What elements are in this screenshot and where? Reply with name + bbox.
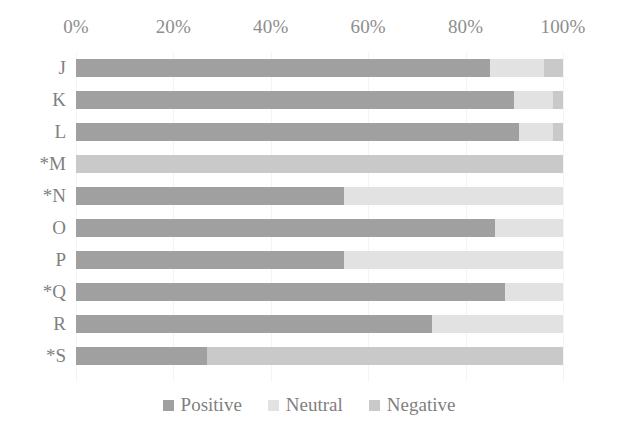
- category-label-J: J: [0, 52, 66, 84]
- x-axis-tick-80: 80%: [448, 16, 483, 38]
- category-label-star-S: *S: [0, 340, 66, 372]
- bar-segment-positive: [76, 59, 490, 77]
- bar-segment-neutral: [432, 315, 563, 333]
- bar-row: *M: [0, 148, 618, 180]
- bar-track: [76, 315, 563, 333]
- bar-segment-neutral: [344, 187, 563, 205]
- bar-segment-neutral: [495, 219, 563, 237]
- bar-segment-neutral: [519, 123, 553, 141]
- bar-row: O: [0, 212, 618, 244]
- bar-track: [76, 187, 563, 205]
- bar-row: *S: [0, 340, 618, 372]
- bar-segment-positive: [76, 91, 514, 109]
- category-label-R: R: [0, 308, 66, 340]
- bar-segment-neutral: [344, 251, 563, 269]
- legend-item-neutral[interactable]: Neutral: [268, 394, 343, 416]
- bar-track: [76, 219, 563, 237]
- x-axis-tick-40: 40%: [253, 16, 288, 38]
- bar-row: *Q: [0, 276, 618, 308]
- category-label-star-Q: *Q: [0, 276, 66, 308]
- category-label-K: K: [0, 84, 66, 116]
- bar-segment-positive: [76, 219, 495, 237]
- legend-label: Negative: [387, 394, 456, 416]
- category-label-star-M: *M: [0, 148, 66, 180]
- x-axis-tick-60: 60%: [350, 16, 385, 38]
- x-axis-tick-labels: 0%20%40%60%80%100%: [76, 16, 563, 44]
- x-axis-tick-20: 20%: [156, 16, 191, 38]
- bar-segment-neutral: [490, 59, 544, 77]
- legend-label: Positive: [181, 394, 242, 416]
- bar-track: [76, 123, 563, 141]
- legend-swatch-neutral-icon: [268, 400, 279, 411]
- bar-segment-negative: [553, 91, 563, 109]
- bar-row: J: [0, 52, 618, 84]
- bar-row: R: [0, 308, 618, 340]
- bar-segment-positive: [76, 347, 207, 365]
- legend-item-positive[interactable]: Positive: [163, 394, 242, 416]
- category-label-O: O: [0, 212, 66, 244]
- x-axis-tick-0: 0%: [63, 16, 89, 38]
- bar-track: [76, 347, 563, 365]
- category-label-star-N: *N: [0, 180, 66, 212]
- category-label-L: L: [0, 116, 66, 148]
- chart-legend: PositiveNeutralNegative: [0, 392, 618, 418]
- bar-segment-neutral: [514, 91, 553, 109]
- bar-row: *N: [0, 180, 618, 212]
- bar-segment-negative: [553, 123, 563, 141]
- bar-segment-positive: [76, 283, 505, 301]
- bar-row: L: [0, 116, 618, 148]
- bar-row: P: [0, 244, 618, 276]
- stacked-bar-chart: 0%20%40%60%80%100% JKL*M*NOP*QR*S Positi…: [0, 0, 618, 439]
- bar-segment-positive: [76, 123, 519, 141]
- bar-track: [76, 155, 563, 173]
- bar-track: [76, 251, 563, 269]
- bar-segment-neutral: [505, 283, 563, 301]
- bar-segment-negative: [207, 347, 563, 365]
- plot-area: JKL*M*NOP*QR*S: [0, 52, 618, 382]
- x-axis-tick-100: 100%: [540, 16, 585, 38]
- bar-segment-positive: [76, 251, 344, 269]
- legend-label: Neutral: [286, 394, 343, 416]
- category-label-P: P: [0, 244, 66, 276]
- bar-track: [76, 91, 563, 109]
- legend-swatch-positive-icon: [163, 400, 174, 411]
- bar-segment-negative: [544, 59, 563, 77]
- bar-segment-positive: [76, 187, 344, 205]
- legend-swatch-negative-icon: [369, 400, 380, 411]
- bar-row: K: [0, 84, 618, 116]
- bar-segment-negative: [76, 155, 563, 173]
- legend-item-negative[interactable]: Negative: [369, 394, 456, 416]
- bar-segment-positive: [76, 315, 432, 333]
- bar-track: [76, 59, 563, 77]
- bar-track: [76, 283, 563, 301]
